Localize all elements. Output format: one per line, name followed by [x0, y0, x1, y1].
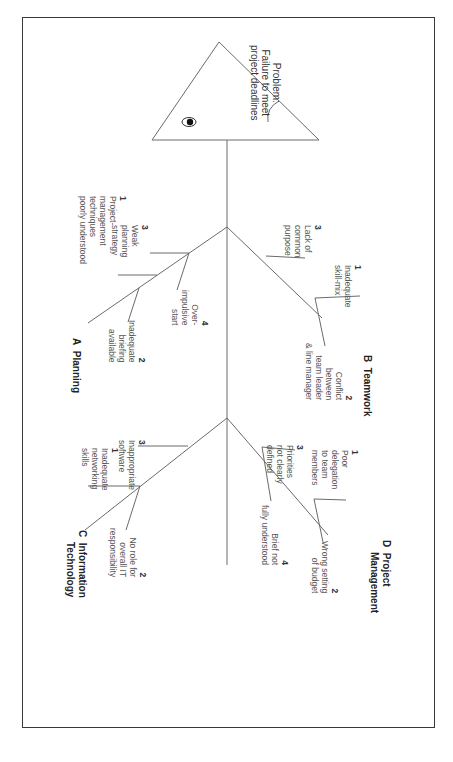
- cause-b2: 2 Conflictbetweenteam leader& line manag…: [304, 343, 354, 400]
- cause-c2: 2 No role foroverall ITresponsibility: [108, 528, 148, 577]
- cause-d3: 3 Prioritiesnot clearlydefined: [265, 445, 305, 484]
- cause-b1: 1 Inadequateskill-mix: [333, 265, 363, 308]
- eye-icon: [182, 118, 196, 127]
- category-a-label: A Planning: [70, 338, 82, 393]
- category-d-label: D Project Management: [368, 540, 392, 613]
- fishbone-lines: [0, 0, 453, 762]
- cause-a3: 3 Weakplanningstrategy: [110, 225, 150, 257]
- problem-label: Problem:: [271, 45, 282, 121]
- cause-a4: 4 Over-impulsivestart: [170, 290, 210, 325]
- category-b-label: B Teamwork: [361, 355, 373, 417]
- problem-line-2: project deadlines: [249, 45, 260, 121]
- cause-d2: 2 Wrong settingof budget: [310, 541, 340, 593]
- cause-c1: 1 Inadequatenetworkingskills: [80, 448, 120, 491]
- cause-b3: 3 Lack ofcommonpurpose: [283, 225, 323, 258]
- cause-c3: 3 Inappropriatesoftware: [117, 440, 147, 490]
- cause-a2: 2 Inadequatebriefingavailable: [107, 320, 147, 363]
- cause-d4: 4 Brief notfully understood: [260, 505, 290, 565]
- problem-statement: Problem: Failure to meet project deadlin…: [249, 45, 282, 121]
- category-c-label: C Information Technology: [64, 530, 88, 598]
- cause-d1: 1 Poordelegationto teammembers: [310, 450, 360, 489]
- problem-triangle: [152, 42, 319, 140]
- problem-line-1: Failure to meet: [260, 45, 271, 121]
